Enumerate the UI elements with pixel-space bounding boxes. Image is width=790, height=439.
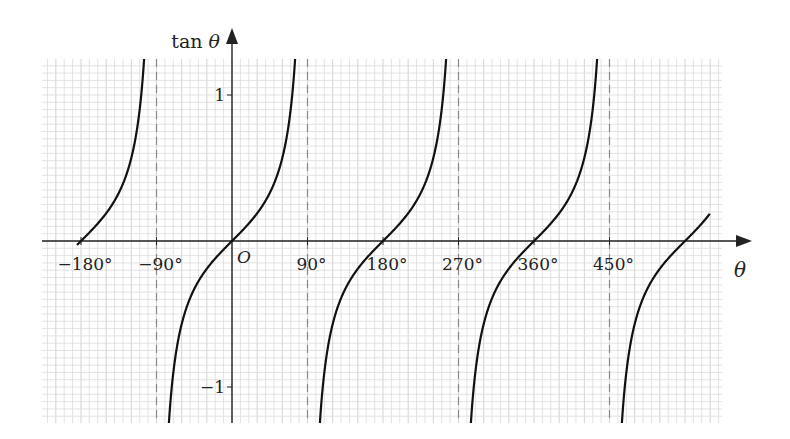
x-tick-label: 180° <box>367 254 408 274</box>
y-axis-label: tan θ <box>171 30 220 52</box>
y-tick-label: 1 <box>214 85 225 105</box>
tan-branch <box>77 54 156 245</box>
origin-label: O <box>237 247 251 267</box>
y-tick-label: −1 <box>200 377 225 397</box>
x-tick-label: 90° <box>296 254 326 274</box>
tan-graph: −180°−90°90°180°270°360°450°1−1Oθtan θ <box>0 0 790 439</box>
x-axis-arrow-icon <box>736 235 752 247</box>
x-tick-label: −90° <box>138 254 182 274</box>
y-axis-arrow-icon <box>226 28 238 44</box>
x-tick-label: 270° <box>442 254 483 274</box>
x-tick-label: 360° <box>518 254 559 274</box>
x-tick-label: 450° <box>593 254 634 274</box>
x-axis-label: θ <box>734 258 746 282</box>
x-tick-label: −180° <box>57 254 112 274</box>
